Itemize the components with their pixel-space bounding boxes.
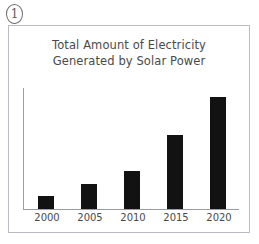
x-tick-label-2000: 2000 bbox=[27, 212, 67, 223]
chart-title-line-1: Total Amount of Electricity bbox=[9, 37, 249, 53]
x-tick-label-2005: 2005 bbox=[70, 212, 110, 223]
bar-2015 bbox=[167, 135, 183, 209]
bar-series bbox=[24, 88, 239, 209]
x-axis-tick-labels: 20002005201020152020 bbox=[24, 212, 240, 228]
x-tick-label-2010: 2010 bbox=[113, 212, 153, 223]
chart-frame: Total Amount of Electricity Generated by… bbox=[8, 25, 250, 233]
chart-title: Total Amount of Electricity Generated by… bbox=[9, 37, 249, 69]
chart-title-line-2: Generated by Solar Power bbox=[9, 53, 249, 69]
marker-number: 1 bbox=[6, 4, 23, 24]
question-number-marker: 1 bbox=[6, 4, 26, 26]
x-tick-label-2020: 2020 bbox=[199, 212, 239, 223]
bar-2000 bbox=[38, 196, 54, 209]
bar-2005 bbox=[81, 184, 97, 209]
bar-2020 bbox=[210, 97, 226, 209]
figure-page: 1 Total Amount of Electricity Generated … bbox=[0, 0, 259, 244]
x-tick-label-2015: 2015 bbox=[156, 212, 196, 223]
plot-area bbox=[23, 88, 239, 210]
bar-2010 bbox=[124, 171, 140, 209]
x-axis-line bbox=[23, 209, 239, 210]
